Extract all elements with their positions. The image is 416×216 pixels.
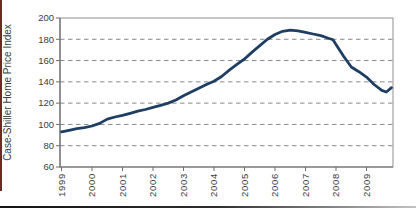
y-axis-tick-label: 160: [38, 55, 54, 66]
x-axis-tick-label: 2004: [208, 173, 219, 197]
y-axis-tick-label: 100: [38, 119, 54, 130]
x-axis-tick-label: 2002: [147, 173, 158, 197]
y-axis-tick-label: 60: [43, 161, 54, 172]
figure-case-shiller-chart: 6080100120140160180200199920002001200220…: [0, 0, 416, 216]
page-bottom-rule: [0, 206, 416, 208]
x-axis-tick-label: 2009: [361, 173, 372, 197]
y-axis-tick-label: 180: [38, 34, 54, 45]
y-axis-tick-label: 120: [38, 97, 54, 108]
y-axis-tick-label: 80: [43, 140, 54, 151]
y-axis-title: Case-Shiller Home Price Index: [2, 24, 13, 161]
x-axis-tick-label: 2000: [86, 173, 97, 197]
x-axis-tick-label: 2007: [300, 173, 311, 197]
x-axis-tick-label: 1999: [56, 173, 67, 197]
plot-frame: [60, 18, 393, 167]
axis-lines: [60, 18, 393, 167]
x-axis-tick-label: 2006: [269, 173, 280, 197]
data-line-case-shiller-index: [62, 30, 392, 132]
x-axis-tick-label: 2008: [330, 173, 341, 197]
y-axis-tick-label: 140: [38, 76, 54, 87]
x-axis-tick-label: 2001: [117, 173, 128, 197]
case-shiller-line-chart: 6080100120140160180200199920002001200220…: [0, 0, 416, 216]
x-axis-tick-label: 2003: [178, 173, 189, 197]
x-axis-tick-label: 2005: [239, 173, 250, 197]
y-axis-tick-label: 200: [38, 12, 54, 23]
